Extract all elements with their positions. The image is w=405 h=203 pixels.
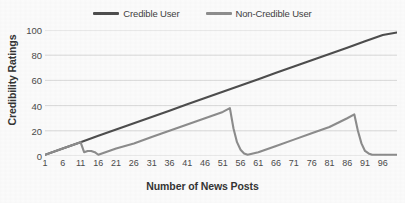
x-tick-label: 56 — [236, 158, 246, 168]
x-tick-label: 91 — [360, 158, 370, 168]
x-tick-label: 46 — [200, 158, 210, 168]
x-tick-label: 36 — [164, 158, 174, 168]
x-tick-label: 16 — [93, 158, 103, 168]
y-tick-label: 80 — [18, 50, 42, 61]
y-tick-label: 0 — [18, 151, 42, 162]
x-tick-label: 11 — [76, 158, 85, 168]
x-tick-label: 51 — [218, 158, 228, 168]
chart-canvas — [45, 30, 397, 156]
x-tick-label: 86 — [342, 158, 352, 168]
y-tick-label: 60 — [18, 75, 42, 86]
y-tick-label: 20 — [18, 125, 42, 136]
x-tick-label: 26 — [129, 158, 139, 168]
legend-entry-non-credible-user: Non-Credible User — [206, 8, 312, 19]
plot-area — [45, 30, 397, 156]
legend-swatch-credible-user — [93, 12, 119, 15]
series-line-credible-user — [45, 33, 397, 155]
series-lines — [45, 33, 397, 155]
x-tick-label: 1 — [42, 158, 47, 168]
x-tick-label: 81 — [324, 158, 334, 168]
chart-figure: Credible User Non-Credible User Credibil… — [0, 0, 405, 203]
y-tick-label: 40 — [18, 100, 42, 111]
legend-swatch-non-credible-user — [206, 12, 232, 15]
x-tick-label: 6 — [60, 158, 65, 168]
x-tick-label: 71 — [289, 158, 299, 168]
legend-entry-credible-user: Credible User — [93, 8, 179, 19]
series-line-non-credible-user — [45, 108, 397, 155]
x-tick-label: 31 — [147, 158, 157, 168]
chart-legend: Credible User Non-Credible User — [0, 8, 405, 19]
x-axis-tick-labels: 16111621263136414651566166717681869196 — [45, 158, 397, 172]
legend-label-credible-user: Credible User — [123, 8, 179, 19]
y-tick-label: 100 — [18, 25, 42, 36]
x-tick-label: 66 — [271, 158, 281, 168]
x-axis-title: Number of News Posts — [0, 180, 405, 192]
y-axis-tick-labels: 020406080100 — [16, 30, 42, 156]
x-tick-label: 76 — [307, 158, 317, 168]
x-tick-label: 21 — [111, 158, 121, 168]
x-tick-label: 41 — [182, 158, 192, 168]
x-tick-label: 96 — [378, 158, 388, 168]
x-tick-label: 61 — [253, 158, 263, 168]
legend-label-non-credible-user: Non-Credible User — [236, 8, 312, 19]
